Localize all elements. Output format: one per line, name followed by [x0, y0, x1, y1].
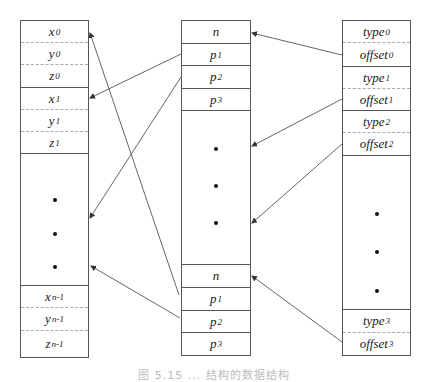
- cell-subscript: 3: [386, 316, 391, 326]
- cell-xn-1: xn-1: [21, 286, 88, 308]
- cell-subscript: 2: [386, 117, 391, 127]
- ellipsis-dot: [214, 221, 218, 225]
- cell-subscript: 1: [56, 116, 61, 126]
- cell-z0: z0: [21, 65, 88, 88]
- cell-type3: type3: [343, 310, 410, 333]
- ellipsis-region: [21, 154, 88, 286]
- ellipsis-dot: [53, 198, 57, 202]
- cell-label: z: [49, 68, 54, 84]
- cell-subscript: 2: [218, 317, 223, 327]
- cell-label: offset: [360, 47, 388, 63]
- cell-label: y: [49, 46, 55, 62]
- cell-subscript: n-1: [52, 339, 64, 349]
- cell-label: p: [210, 47, 217, 63]
- arrow-offset3-to-n-bottom: [252, 276, 342, 342]
- cell-subscript: 0: [389, 50, 394, 60]
- cell-p3: p3: [182, 89, 250, 111]
- cell-label: p: [210, 291, 217, 307]
- ellipsis-region: [343, 156, 410, 310]
- cell-subscript: 1: [218, 294, 223, 304]
- cell-subscript: n-1: [52, 292, 64, 302]
- cell-subscript: 1: [56, 94, 61, 104]
- cell-label: offset: [360, 336, 388, 352]
- cell-subscript: 1: [218, 50, 223, 60]
- cell-type2: type2: [343, 111, 410, 133]
- ellipsis-dot: [375, 289, 379, 293]
- cell-subscript: 0: [55, 71, 60, 81]
- cell-z1: z1: [21, 132, 88, 154]
- cell-p1: p1: [182, 288, 250, 311]
- cell-subscript: 0: [56, 49, 61, 59]
- ellipsis-dot: [375, 250, 379, 254]
- cell-subscript: 3: [218, 339, 223, 349]
- cell-offset3: offset3: [343, 333, 410, 355]
- cell-offset2: offset2: [343, 133, 410, 156]
- cell-subscript: 0: [56, 27, 61, 37]
- cell-label: p: [210, 314, 217, 330]
- cell-yn-1: yn-1: [21, 308, 88, 331]
- cell-n: n: [182, 21, 250, 44]
- cell-y0: y0: [21, 43, 88, 65]
- cell-zn-1: zn-1: [21, 331, 88, 357]
- cell-x1: x1: [21, 88, 88, 110]
- arrow-p2b-to-left-lower: [91, 266, 180, 318]
- cell-subscript: n-1: [52, 314, 64, 324]
- arrow-offset2-to-mid-ellipsis: [252, 144, 342, 223]
- cell-type1: type1: [343, 67, 410, 89]
- cell-p2: p2: [182, 66, 250, 89]
- cell-label: p: [210, 69, 217, 85]
- cell-subscript: 3: [218, 95, 223, 105]
- ellipsis-region: [182, 111, 250, 265]
- cell-label: x: [49, 91, 55, 107]
- cell-p1: p1: [182, 44, 250, 66]
- cell-label: type: [363, 70, 385, 86]
- cell-label: type: [363, 24, 385, 40]
- cell-label: p: [210, 336, 217, 352]
- polygon-index-array: n p1 p2 p3 n p1 p2 p3: [181, 20, 251, 356]
- cell-subscript: 0: [386, 27, 391, 37]
- ellipsis-dot: [53, 232, 57, 236]
- vertex-coordinate-array: x0 y0 z0 x1 y1 z1 xn-1 yn-1 zn-1: [20, 20, 89, 358]
- cell-label: y: [45, 311, 51, 327]
- cell-subscript: 2: [218, 72, 223, 82]
- cell-label: offset: [360, 136, 388, 152]
- arrow-offset1-to-mid-ellipsis: [252, 99, 342, 146]
- ellipsis-dot: [214, 147, 218, 151]
- ellipsis-dot: [214, 184, 218, 188]
- cell-label: x: [49, 24, 55, 40]
- cell-label: n: [213, 24, 220, 40]
- cell-label: p: [210, 92, 217, 108]
- cell-subscript: 1: [55, 138, 60, 148]
- cell-p3: p3: [182, 333, 250, 355]
- type-offset-array: type0 offset0 type1 offset1 type2 offset…: [342, 20, 411, 356]
- cell-type0: type0: [343, 21, 410, 43]
- figure-caption: 图 5.15 ... 结构的数据结构: [0, 366, 428, 382]
- cell-label: type: [363, 114, 385, 130]
- ellipsis-dot: [375, 212, 379, 216]
- cell-label: x: [45, 289, 51, 305]
- cell-label: z: [49, 135, 54, 151]
- cell-label: y: [49, 113, 55, 129]
- cell-label: z: [45, 336, 50, 352]
- cell-label: n: [213, 268, 220, 284]
- cell-p2: p2: [182, 311, 250, 333]
- cell-subscript: 3: [389, 339, 394, 349]
- cell-subscript: 2: [389, 139, 394, 149]
- arrow-p2-to-left-ellipsis: [90, 77, 181, 218]
- arrow-offset0-to-n: [252, 33, 342, 55]
- arrow-p1b-to-x0: [90, 33, 179, 295]
- cell-offset0: offset0: [343, 43, 410, 67]
- cell-label: type: [363, 313, 385, 329]
- cell-x0: x0: [21, 21, 88, 43]
- cell-y1: y1: [21, 110, 88, 132]
- cell-label: offset: [360, 92, 388, 108]
- cell-subscript: 1: [386, 73, 391, 83]
- arrow-p1-to-x1: [90, 54, 181, 98]
- cell-offset1: offset1: [343, 89, 410, 111]
- cell-n: n: [182, 265, 250, 288]
- ellipsis-dot: [53, 265, 57, 269]
- cell-subscript: 1: [389, 95, 394, 105]
